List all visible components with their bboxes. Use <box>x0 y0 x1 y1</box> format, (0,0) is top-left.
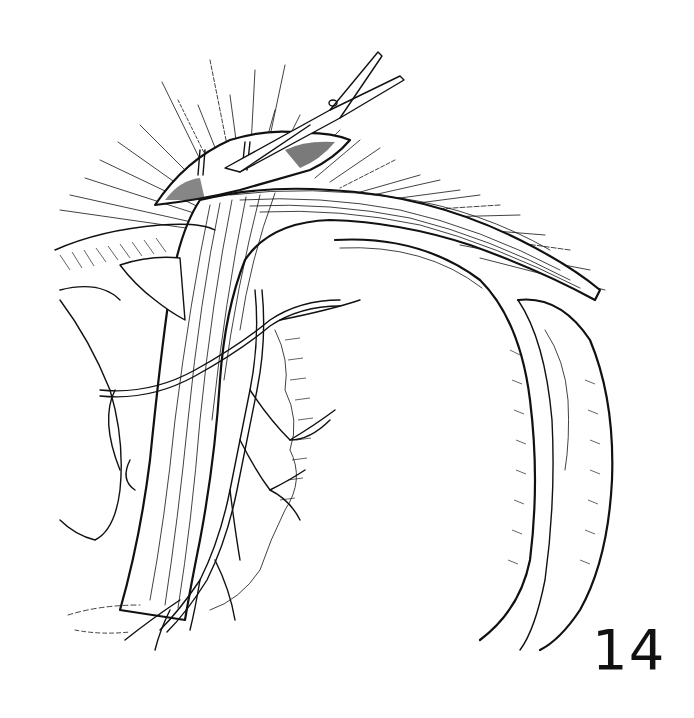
anatomical-illustration <box>0 0 694 718</box>
figure-number: 14 <box>592 622 665 678</box>
left-organ <box>60 287 135 540</box>
curved-structure <box>518 300 612 651</box>
muscle-bundle <box>120 189 600 620</box>
rounded-organ <box>335 240 535 641</box>
